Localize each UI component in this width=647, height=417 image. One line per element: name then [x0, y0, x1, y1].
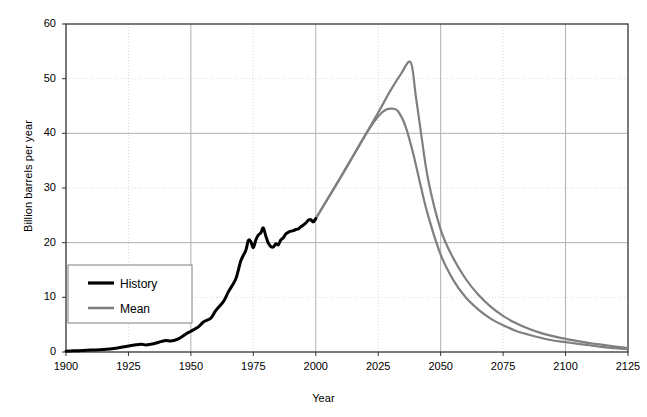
x-tick-label: 2100 [536, 360, 596, 372]
x-tick-label: 1975 [223, 360, 283, 372]
x-tick-label: 2075 [473, 360, 533, 372]
x-tick-label: 2050 [411, 360, 471, 372]
x-tick-label: 1900 [36, 360, 96, 372]
x-tick-label: 1925 [98, 360, 158, 372]
y-tick-label: 40 [16, 126, 56, 138]
x-tick-label: 2000 [286, 360, 346, 372]
y-tick-label: 20 [16, 236, 56, 248]
legend-label-mean: Mean [120, 302, 150, 316]
x-tick-label: 2025 [348, 360, 408, 372]
y-tick-label: 50 [16, 72, 56, 84]
x-tick-label: 1950 [161, 360, 221, 372]
y-tick-label: 10 [16, 290, 56, 302]
x-tick-label: 2125 [598, 360, 647, 372]
legend-label-history: History [120, 277, 157, 291]
chart-container: Billion barrels per year Year HistoryMea… [0, 0, 647, 417]
y-tick-label: 30 [16, 181, 56, 193]
y-tick-label: 0 [16, 345, 56, 357]
plot-area: HistoryMean [0, 0, 647, 417]
y-tick-label: 60 [16, 17, 56, 29]
